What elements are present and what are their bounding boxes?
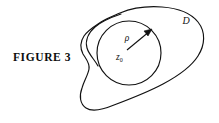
center-label: z0 [115, 52, 123, 63]
figure-diagram: ρ z0 D [0, 0, 219, 123]
center-label-subscript: 0 [120, 57, 123, 63]
region-label: D [181, 15, 190, 26]
radius-label: ρ [124, 33, 130, 43]
figure-container: FIGURE 3 ρ z0 D [0, 0, 219, 123]
